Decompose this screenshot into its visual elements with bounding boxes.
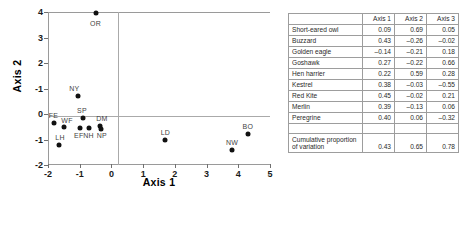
table-row: Buzzard0.43–0.26–0.02 [289,35,459,46]
x-tick-mark [238,164,239,168]
data-point-ld [163,138,168,143]
x-tick-label: 2 [172,169,177,179]
y-tick-mark [44,38,48,39]
axis-line-bottom [48,164,270,165]
x-tick-label: 0 [109,169,114,179]
header-cell-blank [289,14,363,25]
data-point-nw [229,147,234,152]
axis-line-top [48,12,270,13]
data-point-label-wf: WF [61,117,72,124]
axis-line-left [48,12,49,165]
data-point-label-bo: BO [243,122,254,129]
data-point-label-or: OR [90,20,101,27]
cell-axis1: 0.43 [363,35,395,46]
cell-axis1: 0.39 [363,101,395,112]
data-point-label-ld: LD [161,129,170,136]
cell-species-name: Short-eared owl [289,24,363,35]
data-point-label-ny: NY [69,84,79,91]
data-point-label-fe: FE [49,111,58,118]
cell-summary-label: Cumulative proportion of variation [289,134,363,153]
cell-axis1: 0.09 [363,24,395,35]
data-point-wf [61,125,66,130]
data-point-label-np: NP [97,132,107,139]
axis-loadings-table: Axis 1 Axis 2 Axis 3 Short-eared owl0.09… [288,13,459,153]
table-row: Goshawk0.27–0.220.66 [289,57,459,68]
table-row: Short-eared owl0.090.690.05 [289,24,459,35]
x-tick-label: 5 [267,169,272,179]
cell-axis1: –0.14 [363,46,395,57]
x-tick-mark [143,164,144,168]
spacer-cell [427,123,459,134]
y-tick-label: 2 [38,58,43,68]
x-tick-label: 3 [204,169,209,179]
x-tick-mark [270,164,271,168]
table-header-row: Axis 1 Axis 2 Axis 3 [289,14,459,25]
cell-summary-axis2: 0.65 [395,134,427,153]
table-spacer-row [289,123,459,134]
spacer-cell [363,123,395,134]
cell-axis2: –0.26 [395,35,427,46]
cell-axis1: 0.27 [363,57,395,68]
cell-axis1: 0.45 [363,90,395,101]
data-point-sp [80,115,85,120]
cell-axis3: 0.21 [427,90,459,101]
cell-axis3: 0.18 [427,46,459,57]
spacer-cell [289,123,363,134]
table-row: Golden eagle–0.14–0.210.18 [289,46,459,57]
plot-area: 432-10-1-2 -2-1012345 ORNYSPFEWFEFNHDMNP… [48,12,270,165]
y-tick-mark [44,12,48,13]
cell-species-name: Hen harrier [289,68,363,79]
cell-axis2: –0.22 [395,57,427,68]
data-point-label-dm: DM [96,115,107,122]
data-point-label-sp: SP [77,106,87,113]
data-point-label-ef: EF [74,131,83,138]
data-point-label-nw: NW [226,139,238,146]
cell-axis1: 0.22 [363,68,395,79]
y-tick-label: 0 [38,109,43,119]
data-point-label-nh: NH [83,131,94,138]
cell-axis2: –0.02 [395,90,427,101]
y-tick-label: -1 [35,135,43,145]
cell-summary-axis1: 0.43 [363,134,395,153]
data-point-nh [86,126,91,131]
cell-axis2: 0.06 [395,112,427,123]
cell-species-name: Buzzard [289,35,363,46]
y-tick-label: 4 [38,7,43,17]
cell-axis2: 0.59 [395,68,427,79]
cell-axis2: –0.13 [395,101,427,112]
x-tick-label: -1 [76,169,84,179]
cell-axis3: –0.32 [427,112,459,123]
data-point-fe [52,120,57,125]
cell-species-name: Golden eagle [289,46,363,57]
y-tick-mark [44,63,48,64]
x-tick-label: -2 [44,169,52,179]
y-tick-mark [44,114,48,115]
cell-axis2: –0.03 [395,79,427,90]
cell-axis3: 0.05 [427,24,459,35]
cell-axis3: 0.28 [427,68,459,79]
x-tick-mark [111,164,112,168]
data-point-or [93,11,98,16]
table-row: Hen harrier0.220.590.28 [289,68,459,79]
cell-axis1: 0.38 [363,79,395,90]
cell-axis2: 0.69 [395,24,427,35]
data-point-ny [76,94,81,99]
cell-axis3: 0.66 [427,57,459,68]
header-cell-axis1: Axis 1 [363,14,395,25]
x-tick-mark [207,164,208,168]
data-point-label-lh: LH [55,134,64,141]
data-point-ef [77,126,82,131]
scatter-plot-figure: Axis 2 Axis 1 432-10-1-2 -2-1012345 ORNY… [0,0,280,227]
x-tick-label: 4 [236,169,241,179]
table-row: Kestrel0.38–0.03–0.55 [289,79,459,90]
header-cell-axis2: Axis 2 [395,14,427,25]
cell-summary-axis3: 0.78 [427,134,459,153]
cell-species-name: Goshawk [289,57,363,68]
table-row: Peregrine0.400.06–0.32 [289,112,459,123]
cell-species-name: Merlin [289,101,363,112]
y-tick-label: 3 [38,33,43,43]
x-tick-mark [80,164,81,168]
y-tick-mark [44,140,48,141]
x-tick-mark [175,164,176,168]
y-tick-mark [44,89,48,90]
